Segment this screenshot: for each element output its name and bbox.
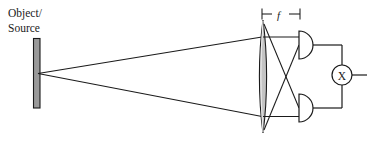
converging-ray-cross bbox=[263, 24, 299, 130]
object-source-label-line2: Source bbox=[8, 22, 40, 34]
ray-bundle bbox=[38, 37, 262, 117]
focal-length-dimension: f bbox=[262, 9, 300, 21]
diagram-canvas: Object/ Source f bbox=[0, 0, 374, 150]
ray-lower bbox=[38, 74, 262, 117]
focal-length-label: f bbox=[277, 9, 282, 21]
photodetector-top bbox=[299, 31, 313, 59]
optical-setup-figure: Object/ Source f bbox=[0, 0, 374, 150]
multiplier-symbol: X bbox=[338, 70, 347, 82]
ray-upper bbox=[38, 37, 262, 74]
ray-cross-up bbox=[264, 45, 299, 130]
photodetector-bottom bbox=[299, 94, 313, 122]
object-source-label-line1: Object/ bbox=[8, 7, 43, 20]
